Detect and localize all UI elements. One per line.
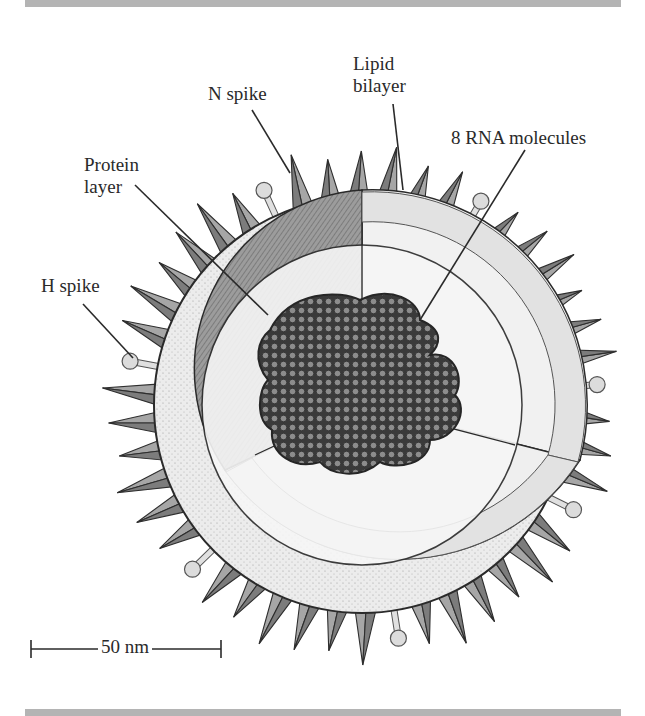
bottom-rule <box>25 709 621 716</box>
label-protein-layer-line1: Protein <box>84 154 139 176</box>
label-protein-layer: Protein layer <box>84 154 139 198</box>
scale-bar-label: 50 nm <box>98 636 152 658</box>
label-n-spike: N spike <box>208 83 267 105</box>
label-lipid-bilayer-line1: Lipid <box>353 53 406 75</box>
label-lipid-bilayer: Lipid bilayer <box>353 53 406 97</box>
label-h-spike: H spike <box>41 275 100 297</box>
label-rna: 8 RNA molecules <box>451 127 586 149</box>
label-lipid-bilayer-line2: bilayer <box>353 75 406 97</box>
label-protein-layer-line2: layer <box>84 176 139 198</box>
scale-bar: 50 nm <box>30 636 225 662</box>
